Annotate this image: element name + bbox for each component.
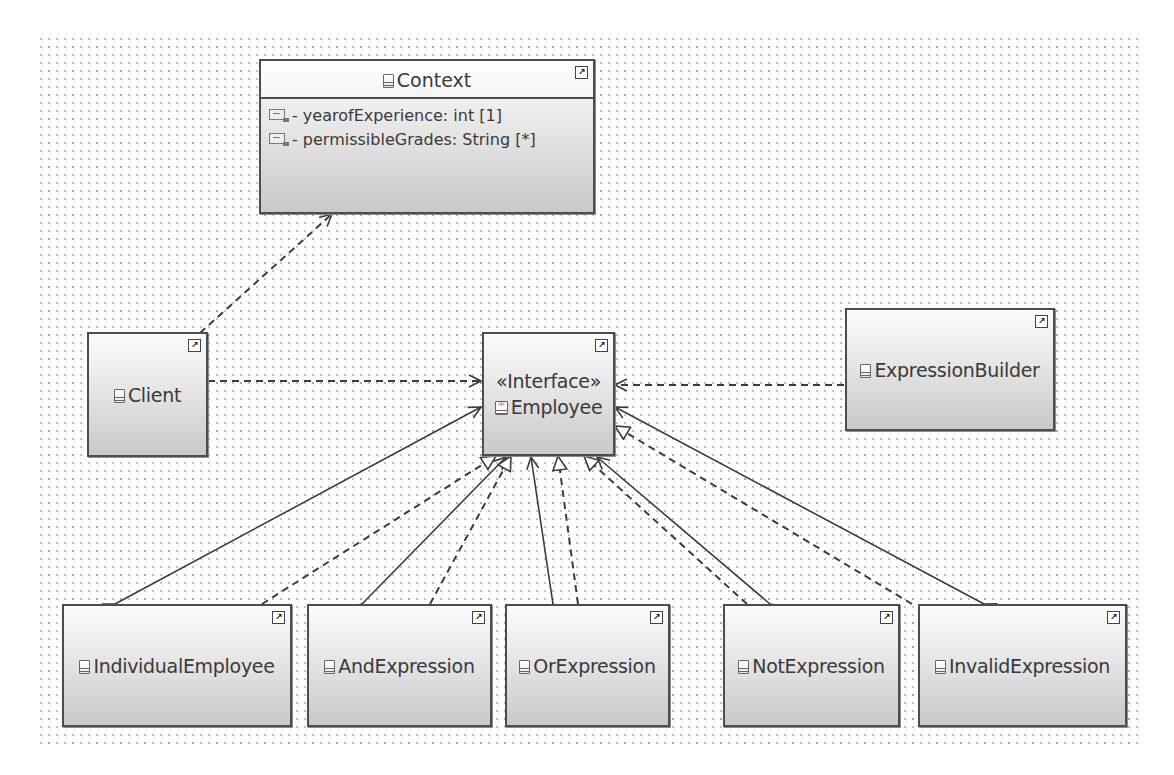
class-header: Context: [261, 61, 593, 99]
attribute-compartment: - yearofExperience: int [1] - permissibl…: [269, 105, 536, 153]
edge-notexpression-employee-realization[interactable]: [584, 456, 747, 604]
class-name: InvalidExpression: [949, 655, 1110, 677]
class-individual-employee[interactable]: ↗ IndividualEmployee: [62, 604, 292, 727]
shortcut-icon[interactable]: ↗: [595, 339, 608, 352]
class-name: Employee: [511, 396, 603, 418]
edge-individualemployee-employee-realization[interactable]: [262, 456, 496, 604]
shortcut-icon[interactable]: ↗: [1035, 315, 1048, 328]
class-context[interactable]: Context ↗ - yearofExperience: int [1] - …: [259, 59, 595, 214]
class-client[interactable]: ↗ Client: [87, 332, 208, 457]
class-title: Client: [89, 384, 206, 406]
class-or-expression[interactable]: ↗ OrExpression: [505, 604, 670, 727]
attribute-label: - permissibleGrades: String [*]: [292, 130, 536, 149]
class-expression-builder[interactable]: ↗ ExpressionBuilder: [845, 308, 1055, 431]
class-title: IndividualEmployee: [64, 655, 290, 677]
class-icon: [860, 364, 871, 378]
class-name: IndividualEmployee: [93, 655, 274, 677]
diagram-canvas[interactable]: Context ↗ - yearofExperience: int [1] - …: [0, 0, 1174, 775]
shortcut-icon[interactable]: ↗: [650, 611, 663, 624]
class-not-expression[interactable]: ↗ NotExpression: [723, 604, 900, 727]
interface-employee[interactable]: ↗ «Interface» Employee: [482, 332, 615, 456]
class-name: ExpressionBuilder: [874, 359, 1039, 381]
class-name: Context: [397, 69, 471, 91]
class-title: Context: [261, 69, 593, 91]
class-title: OrExpression: [507, 655, 668, 677]
class-icon: [79, 660, 90, 674]
class-icon: [324, 660, 335, 674]
class-icon: [519, 660, 530, 674]
interface-icon: [495, 401, 508, 415]
class-name: NotExpression: [752, 655, 885, 677]
attribute-icon: [269, 133, 285, 144]
edge-orexpression-employee-aggregation[interactable]: [531, 457, 553, 604]
class-name: Client: [128, 384, 181, 406]
shortcut-icon[interactable]: ↗: [575, 66, 588, 79]
edge-client-context[interactable]: [200, 214, 332, 333]
stereotype-label: «Interface»: [484, 368, 613, 394]
class-icon: [935, 660, 946, 674]
attribute-icon: [269, 109, 285, 120]
shortcut-icon[interactable]: ↗: [1107, 611, 1120, 624]
class-title: AndExpression: [309, 655, 490, 677]
class-title: NotExpression: [725, 655, 898, 677]
attribute-row[interactable]: - permissibleGrades: String [*]: [269, 129, 536, 153]
attribute-row[interactable]: - yearofExperience: int [1]: [269, 105, 536, 129]
class-invalid-expression[interactable]: ↗ InvalidExpression: [918, 604, 1127, 727]
shortcut-icon[interactable]: ↗: [472, 611, 485, 624]
edge-andexpression-employee-realization[interactable]: [430, 456, 511, 604]
attribute-label: - yearofExperience: int [1]: [292, 106, 502, 125]
class-title: InvalidExpression: [920, 655, 1125, 677]
shortcut-icon[interactable]: ↗: [880, 611, 893, 624]
class-name: OrExpression: [533, 655, 655, 677]
class-icon: [383, 74, 394, 88]
shortcut-icon[interactable]: ↗: [188, 339, 201, 352]
class-title: «Interface» Employee: [484, 368, 613, 420]
class-and-expression[interactable]: ↗ AndExpression: [307, 604, 492, 727]
edge-invalidexpression-employee-aggregation[interactable]: [615, 407, 984, 604]
class-icon: [114, 389, 125, 403]
edge-orexpression-employee-realization[interactable]: [558, 456, 578, 604]
class-icon: [738, 660, 749, 674]
class-name: AndExpression: [338, 655, 474, 677]
shortcut-icon[interactable]: ↗: [272, 611, 285, 624]
edge-invalidexpression-employee-realization[interactable]: [615, 426, 912, 604]
edge-notexpression-employee-aggregation[interactable]: [597, 457, 770, 604]
edge-andexpression-employee-aggregation[interactable]: [362, 457, 506, 604]
class-title: ExpressionBuilder: [847, 359, 1053, 381]
